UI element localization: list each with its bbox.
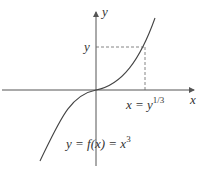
function-label-base: y = f(x) = x (66, 136, 126, 151)
function-label: y = f(x) = x3 (66, 135, 131, 150)
y-value-label: y (84, 40, 90, 53)
y-axis-label: y (102, 5, 108, 18)
x-axis-label: x (190, 93, 196, 106)
x-value-base: x = y (126, 97, 153, 112)
x-value-exponent: 1/3 (153, 95, 165, 105)
function-label-exponent: 3 (126, 134, 131, 144)
x-value-label: x = y1/3 (126, 96, 164, 111)
diagram-cube-function: y x y x = y1/3 y = f(x) = x3 (0, 0, 202, 173)
